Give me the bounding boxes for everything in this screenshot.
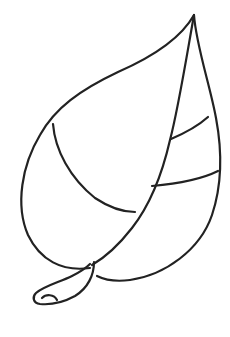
- leaf-vein-right-upper: [171, 117, 208, 139]
- leaf-outline-left: [21, 15, 194, 269]
- leaf-stem-highlight: [42, 295, 57, 300]
- leaf-icon: [0, 0, 230, 337]
- leaf-drawing-canvas: [0, 0, 230, 337]
- leaf-vein-right-lower: [152, 171, 218, 186]
- leaf-vein-left: [53, 124, 135, 212]
- leaf-outline-right: [97, 15, 220, 281]
- leaf-midrib: [92, 15, 194, 265]
